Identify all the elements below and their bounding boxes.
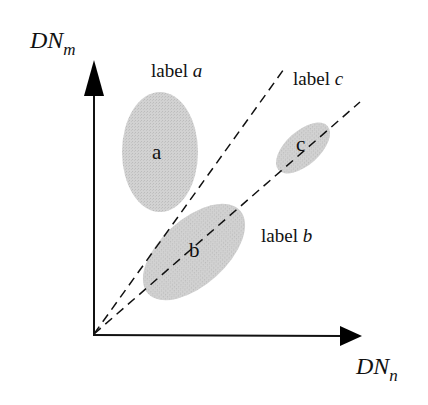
cluster-c-letter: c bbox=[296, 134, 305, 155]
y-axis-label-main: DN bbox=[30, 27, 63, 53]
label-b-var: b bbox=[303, 225, 313, 246]
x-axis-label-sub: n bbox=[389, 366, 398, 385]
y-axis-arrowhead-icon bbox=[84, 60, 104, 96]
label-c-text: label bbox=[293, 68, 335, 89]
cluster-b-letter: b bbox=[189, 240, 200, 261]
label-a: label a bbox=[151, 61, 202, 80]
label-c-var: c bbox=[335, 68, 343, 89]
y-axis-label: DNm bbox=[30, 28, 76, 58]
label-c: label c bbox=[293, 69, 343, 88]
label-b: label b bbox=[261, 226, 312, 245]
label-b-text: label bbox=[261, 225, 303, 246]
label-a-var: a bbox=[193, 60, 203, 81]
scatter-diagram bbox=[0, 0, 428, 405]
x-axis-line bbox=[93, 335, 342, 336]
label-a-text: label bbox=[151, 60, 193, 81]
cluster-a-letter: a bbox=[152, 142, 161, 163]
x-axis-label: DNn bbox=[356, 354, 398, 384]
y-axis-label-sub: m bbox=[63, 40, 75, 59]
x-axis-label-main: DN bbox=[356, 353, 389, 379]
x-axis-arrowhead-icon bbox=[340, 326, 362, 346]
